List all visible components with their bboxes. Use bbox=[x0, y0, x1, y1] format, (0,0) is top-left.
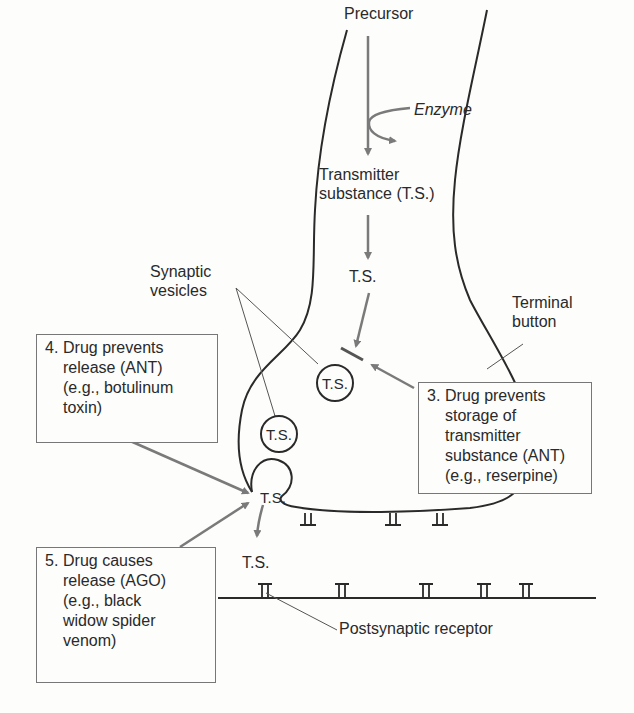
storage-block-bar bbox=[341, 348, 363, 360]
drug-effect-box-4: 4. Drug prevents release (ANT) (e.g., bo… bbox=[36, 334, 218, 443]
terminal-button-label: Terminal button bbox=[512, 293, 572, 331]
box-5-number: 5. bbox=[45, 551, 58, 571]
leader-terminal-button bbox=[487, 344, 523, 369]
box-3-text: Drug prevents storage of transmitter sub… bbox=[445, 386, 585, 486]
synaptic-vesicles-label: Synaptic vesicles bbox=[150, 262, 211, 300]
box-3-number: 3. bbox=[427, 386, 440, 406]
presynaptic-receptors bbox=[300, 513, 448, 525]
axon-right-membrane bbox=[453, 10, 516, 385]
fusing-vesicle: T.S. bbox=[254, 478, 292, 516]
synaptic-vesicle: T.S. bbox=[316, 364, 354, 402]
box-5-text: Drug causes release (AGO) (e.g., black w… bbox=[63, 551, 209, 651]
transmitter-substance-label: Transmitter substance (T.S.) bbox=[319, 165, 435, 203]
postsynaptic-receptor-label: Postsynaptic receptor bbox=[339, 619, 493, 638]
released-ts-label: T.S. bbox=[242, 553, 270, 572]
enzyme-label: Enzyme bbox=[414, 100, 472, 119]
ts-label: T.S. bbox=[349, 267, 377, 286]
precursor-label: Precursor bbox=[344, 4, 413, 23]
drug-effect-box-5: 5. Drug causes release (AGO) (e.g., blac… bbox=[36, 547, 216, 683]
arrow-drug-3 bbox=[372, 365, 414, 388]
synaptic-vesicle: T.S. bbox=[260, 415, 298, 453]
enzyme-arrow bbox=[369, 108, 410, 141]
box-4-text: Drug prevents release (ANT) (e.g., botul… bbox=[63, 338, 211, 418]
postsynaptic-receptors bbox=[258, 584, 533, 597]
leader-vesicles-1 bbox=[236, 288, 318, 364]
arrow-ts-to-vesicle bbox=[356, 293, 369, 346]
arrow-drug-4 bbox=[128, 440, 248, 493]
drug-effect-box-3: 3. Drug prevents storage of transmitter … bbox=[418, 382, 592, 494]
leader-vesicles-2 bbox=[236, 288, 275, 416]
arrow-drug-5 bbox=[180, 503, 248, 547]
box-4-number: 4. bbox=[45, 338, 58, 358]
